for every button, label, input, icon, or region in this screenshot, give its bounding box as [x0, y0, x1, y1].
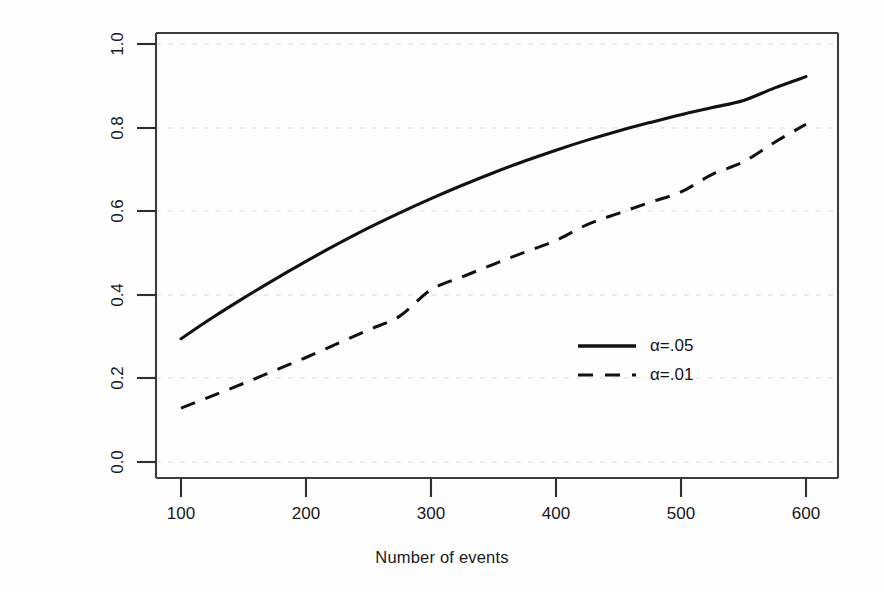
xtick-label-400: 400 — [526, 504, 586, 524]
ytick-label-1.0: 1.0 — [108, 21, 128, 67]
x-axis-title: Number of events — [0, 548, 884, 567]
ytick-label-0.6: 0.6 — [108, 188, 128, 234]
ytick-label-0.2: 0.2 — [108, 355, 128, 401]
ytick-label-0.0: 0.0 — [108, 439, 128, 485]
xtick-label-100: 100 — [151, 504, 211, 524]
legend-label-alpha-05: α=.05 — [650, 336, 693, 356]
xtick-label-200: 200 — [276, 504, 336, 524]
xtick-label-600: 600 — [776, 504, 836, 524]
legend-label-alpha-01: α=.01 — [650, 365, 693, 385]
ytick-label-0.8: 0.8 — [108, 105, 128, 151]
ytick-label-0.4: 0.4 — [108, 272, 128, 318]
xtick-label-300: 300 — [401, 504, 461, 524]
xtick-label-500: 500 — [651, 504, 711, 524]
chart-screenshot: 0.0 0.2 0.4 0.6 0.8 1.0 100 200 300 400 … — [0, 0, 884, 592]
